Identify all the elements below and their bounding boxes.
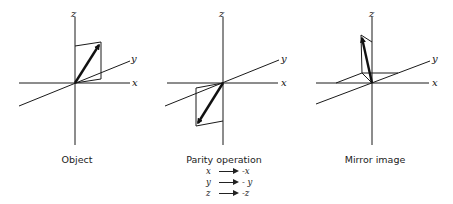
object-panel <box>19 17 130 145</box>
parity-y-label: y <box>281 54 287 64</box>
parity-panel <box>165 17 279 145</box>
rule-to: - y <box>242 178 252 187</box>
mirror-panel <box>316 17 430 145</box>
object-y-label: y <box>131 54 137 64</box>
rule-from: y <box>206 178 216 187</box>
mirror-caption: Mirror image <box>345 155 406 165</box>
parity-rule-z: z -z <box>206 189 249 198</box>
object-box-bottom <box>75 79 101 83</box>
parity-rule-y: y - y <box>206 178 252 187</box>
object-vector-arrow <box>75 45 99 83</box>
rule-to: -x <box>242 167 250 176</box>
right-arrow-icon <box>219 168 239 174</box>
mirror-z-label: z <box>369 9 374 19</box>
rule-from: z <box>206 189 216 198</box>
parity-x-label: x <box>281 78 287 88</box>
object-x-label: x <box>132 78 138 88</box>
mirror-box-floor <box>336 73 362 83</box>
parity-rule-x: x -x <box>206 167 250 176</box>
rule-to: -z <box>242 189 249 198</box>
mirror-x-label: x <box>432 78 438 88</box>
parity-vector-arrow <box>198 83 223 123</box>
parity-z-label: z <box>219 9 224 19</box>
parity-caption: Parity operation <box>186 155 262 165</box>
right-arrow-icon <box>219 190 239 196</box>
rule-from: x <box>206 167 216 176</box>
mirror-y-label: y <box>432 54 438 64</box>
object-z-label: z <box>71 9 76 19</box>
object-caption: Object <box>62 155 93 165</box>
right-arrow-icon <box>219 179 239 185</box>
mirror-vector-arrow <box>362 38 372 83</box>
object-box-top <box>75 42 101 46</box>
